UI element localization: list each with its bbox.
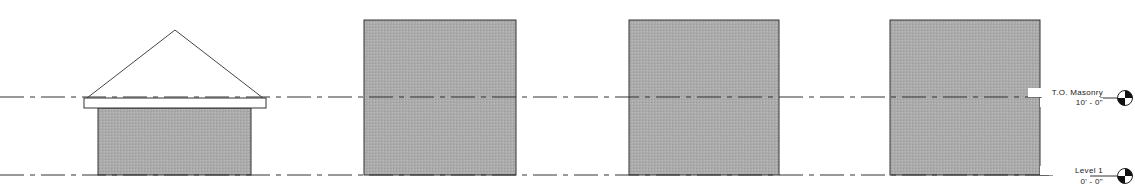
level-head-icon-level-1[interactable] [1118, 169, 1133, 184]
level-name-to-masonry[interactable]: T.O. Masonry [1028, 88, 1103, 97]
house-wall [98, 108, 251, 175]
house-slab [84, 98, 266, 108]
elevation-drawing [0, 0, 1135, 196]
level-elevation-level-1[interactable]: 0' - 0" [1040, 177, 1103, 186]
house-roof [87, 30, 263, 98]
level-elevation-to-masonry[interactable]: 10' - 0" [1040, 98, 1103, 107]
level-name-level-1[interactable]: Level 1 [1040, 166, 1103, 175]
house-element[interactable] [84, 30, 266, 175]
level-head-icon-to-masonry[interactable] [1118, 91, 1133, 106]
